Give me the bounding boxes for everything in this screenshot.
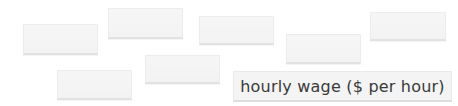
- blank-card-5[interactable]: [370, 12, 446, 41]
- blank-card-6[interactable]: [57, 70, 132, 100]
- blank-card-7[interactable]: [145, 55, 220, 84]
- blank-card-4[interactable]: [286, 34, 361, 64]
- blank-card-1[interactable]: [23, 24, 98, 55]
- blank-card-3[interactable]: [199, 16, 274, 45]
- label-text: hourly wage ($ per hour): [240, 77, 445, 96]
- blank-card-2[interactable]: [108, 8, 183, 39]
- hourly-wage-label-card[interactable]: hourly wage ($ per hour): [233, 71, 452, 102]
